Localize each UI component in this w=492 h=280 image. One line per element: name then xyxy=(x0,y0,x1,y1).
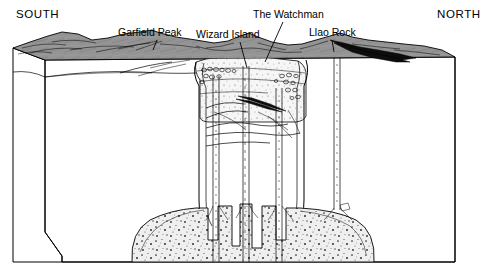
feature-label-garfield-peak: Garfield Peak xyxy=(118,26,182,38)
feature-label-llao-rock: Llao Rock xyxy=(309,26,356,38)
llao-rock-feeder-dike xyxy=(334,55,340,210)
subsurface-geology xyxy=(45,55,374,262)
feature-label-wizard-island: Wizard Island xyxy=(196,28,260,40)
magma-chamber xyxy=(132,204,374,262)
block-left-face xyxy=(13,48,62,262)
orientation-label-north: NORTH xyxy=(437,8,481,20)
block-left-stratum xyxy=(13,72,45,77)
interior-fault-5 xyxy=(206,142,270,146)
feature-label-the-watchman: The Watchman xyxy=(253,8,324,20)
block-diagram-figure: SOUTH NORTH xyxy=(0,0,492,280)
flank-line-2 xyxy=(138,64,186,76)
interior-fault-4 xyxy=(206,132,300,136)
crater-lake-cross-section-svg: SOUTH NORTH xyxy=(0,0,492,280)
orientation-label-south: SOUTH xyxy=(16,8,59,20)
